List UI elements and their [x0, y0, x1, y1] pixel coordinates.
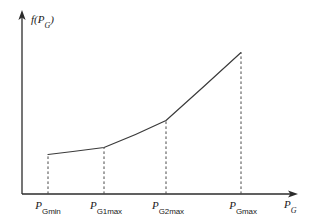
tick-label-pgmin: PGmin: [35, 200, 60, 214]
tick-label-variable: P: [152, 199, 159, 211]
tick-label-pgmax: PGmax: [229, 200, 257, 214]
tick-label-pg2max: PG2max: [152, 200, 184, 214]
tick-label-subscript: Gmax: [236, 207, 257, 216]
tick-label-variable: P: [90, 199, 97, 211]
y-axis-label-subscript: G: [44, 21, 50, 30]
cost-curve: [48, 53, 241, 155]
x-axis-label-variable: P: [284, 198, 291, 210]
tick-label-subscript: G2max: [159, 207, 184, 216]
x-axis-label: PG: [284, 199, 297, 213]
x-axis-label-subscript: G: [291, 206, 297, 215]
y-axis-label-paren-close: ): [50, 13, 54, 25]
chart-canvas: [0, 0, 331, 223]
tick-label-subscript: Gmin: [42, 207, 61, 216]
tick-label-variable: P: [35, 199, 42, 211]
chart-figure: f(PG) PG PGmin PG1max PG2max PGmax: [0, 0, 331, 223]
tick-label-pg1max: PG1max: [90, 200, 122, 214]
tick-label-subscript: G1max: [97, 207, 122, 216]
tick-label-variable: P: [229, 199, 236, 211]
y-axis-label: f(PG): [31, 14, 54, 28]
